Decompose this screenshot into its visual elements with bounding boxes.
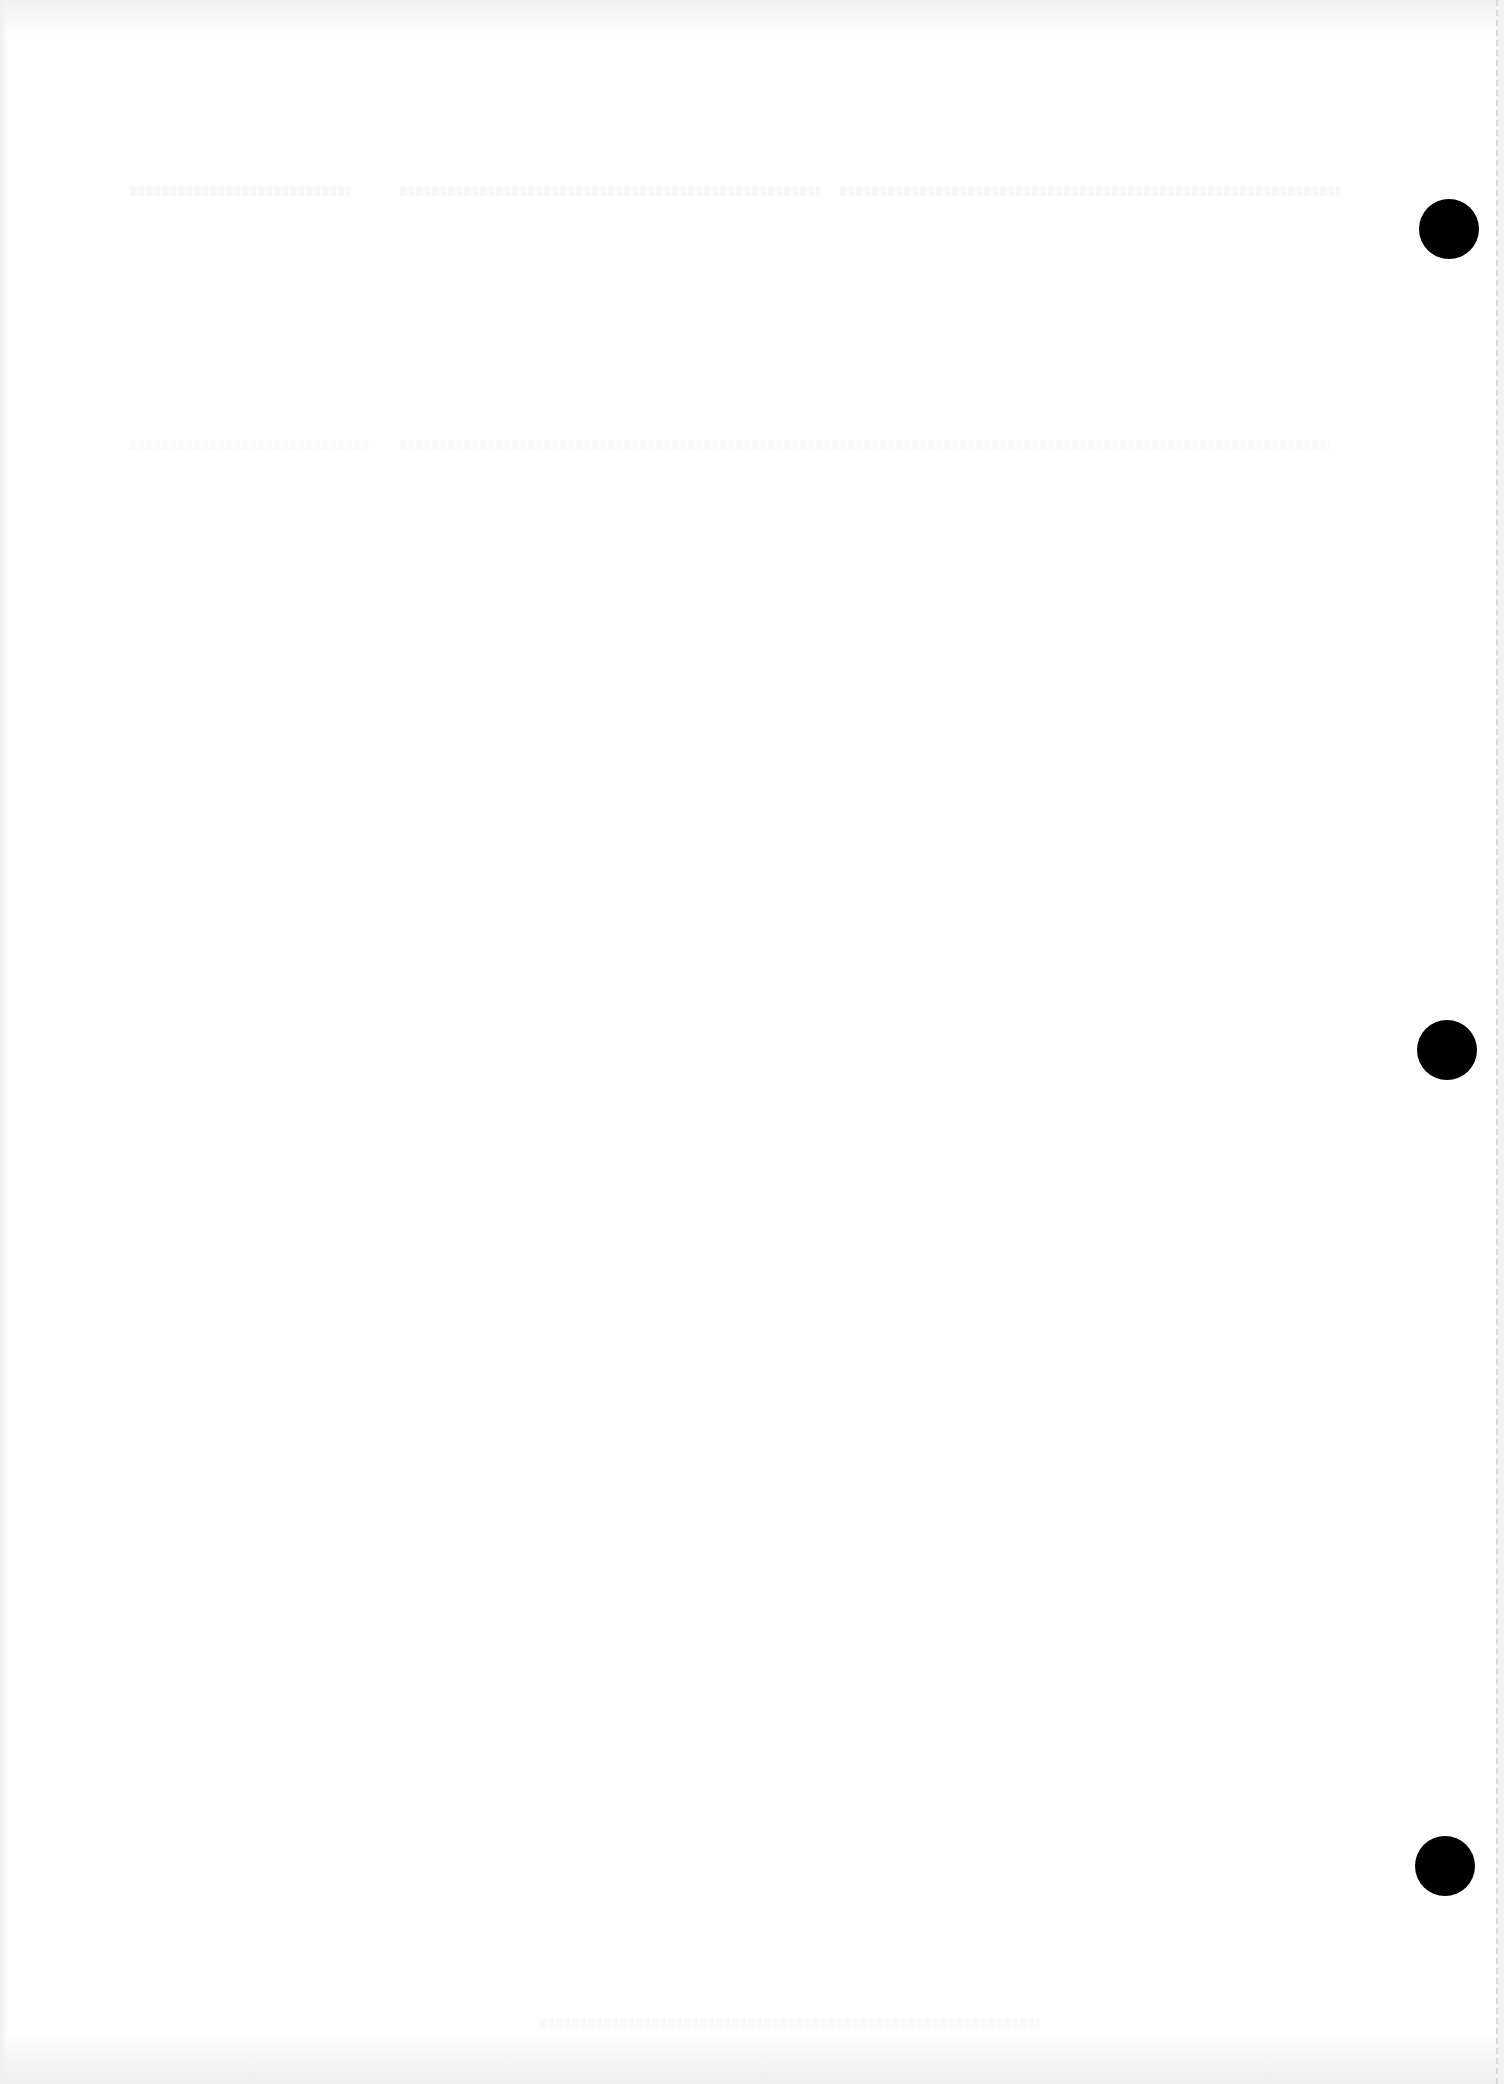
punch-hole-top [1419,199,1479,259]
page-edge-strip [1496,0,1504,2084]
bleed-through-line [840,186,1340,196]
punch-hole-middle [1417,1020,1477,1080]
bleed-through-line [130,440,370,450]
scanned-page [0,0,1504,2084]
scan-shadow-top [0,0,1504,36]
punch-hole-bottom [1415,1836,1475,1896]
bleed-through-line [400,186,820,196]
bleed-through-line [130,186,350,196]
scan-shadow-bottom [0,2034,1504,2084]
bleed-through-line [400,440,1330,450]
bleed-through-line [540,2018,1040,2028]
scan-shadow-left [0,0,8,2084]
